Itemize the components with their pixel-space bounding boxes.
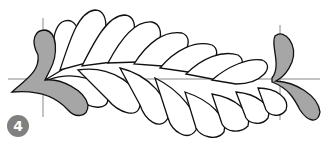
feather-diagram: 4 bbox=[0, 0, 331, 157]
top-feathers bbox=[45, 10, 268, 84]
feather-illustration bbox=[0, 0, 331, 157]
step-number-badge: 4 bbox=[7, 115, 29, 137]
